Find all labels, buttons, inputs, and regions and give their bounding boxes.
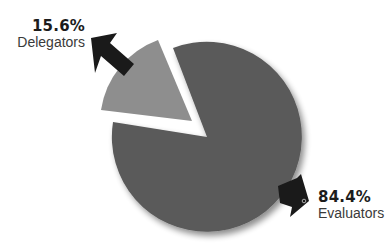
delegators-name: Delegators (17, 34, 85, 51)
evaluators-name: Evaluators (318, 205, 384, 222)
delegators-percent: 15.6% (17, 18, 85, 34)
label-evaluators: 84.4% Evaluators (318, 189, 384, 222)
evaluators-percent: 84.4% (318, 189, 384, 205)
arrow-up-left-icon (91, 33, 134, 76)
label-delegators: 15.6% Delegators (17, 18, 85, 51)
